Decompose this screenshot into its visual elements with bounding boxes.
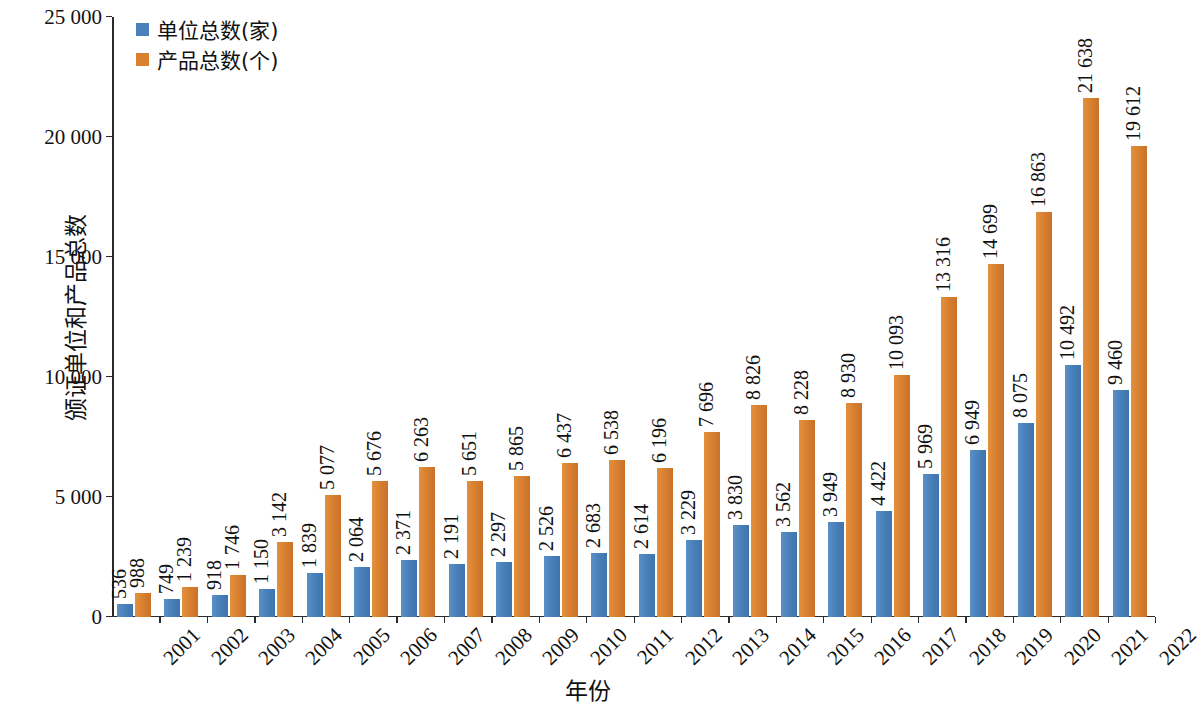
bar[interactable] [117,604,133,617]
bar-group: 4 42210 093 [871,17,918,617]
bar[interactable] [686,540,702,617]
y-tick-label: 5 000 [7,485,102,510]
legend-item[interactable]: 产品总数(个) [136,44,278,74]
bar[interactable] [307,573,323,617]
x-tick-label: 2010 [585,623,632,670]
bar-value-label: 1 150 [251,539,271,584]
bar[interactable] [1018,423,1034,617]
x-tick-label: 2016 [870,623,917,670]
bar[interactable] [1083,98,1099,617]
bar[interactable] [562,463,578,617]
bar-value-label: 5 676 [364,431,384,476]
bar[interactable] [1131,146,1147,617]
bar-value-label: 2 064 [346,517,366,562]
x-tick-label: 2015 [822,623,869,670]
bar-group: 3 2297 696 [681,17,728,617]
x-tick-label: 2008 [490,623,537,670]
bar-value-label: 16 863 [1028,152,1048,207]
bar[interactable] [277,542,293,617]
y-tick-label: 10 000 [7,365,102,390]
bar-value-label: 6 437 [554,413,574,458]
bar[interactable] [496,562,512,617]
bar[interactable] [923,474,939,617]
bar[interactable] [988,264,1004,617]
bar-group: 2 0645 676 [349,17,396,617]
bar[interactable] [449,564,465,617]
bar[interactable] [941,297,957,617]
bar[interactable] [182,587,198,617]
bar[interactable] [1065,365,1081,617]
bar[interactable] [639,554,655,617]
bar-value-label: 5 865 [506,426,526,471]
bar[interactable] [544,556,560,617]
bar-group: 2 6146 196 [634,17,681,617]
legend-item[interactable]: 单位总数(家) [136,14,278,44]
bar-value-label: 7 696 [696,382,716,427]
bar[interactable] [609,460,625,617]
bar[interactable] [212,595,228,617]
bar[interactable] [781,532,797,617]
bar[interactable] [799,420,815,617]
bar[interactable] [354,567,370,617]
bar[interactable] [230,575,246,617]
x-tick-mark [871,617,872,623]
bar[interactable] [894,375,910,617]
bar-value-label: 2 683 [583,503,603,548]
x-tick-mark [1013,617,1014,623]
bar-value-label: 6 263 [411,417,431,462]
bar[interactable] [164,599,180,617]
bar-value-label: 3 949 [820,472,840,517]
bar[interactable] [876,511,892,617]
x-tick-label: 2017 [917,623,964,670]
bar-value-label: 19 612 [1123,86,1143,141]
x-tick-mark [1108,617,1109,623]
bar[interactable] [751,405,767,617]
x-tick-label: 2005 [348,623,395,670]
bar[interactable] [828,522,844,617]
bar-group: 9181 746 [207,17,254,617]
plot-area: 05 00010 00015 00020 00025 000 536988749… [112,17,1155,617]
bar-value-label: 10 492 [1057,305,1077,360]
bar[interactable] [372,481,388,617]
bar[interactable] [514,476,530,617]
bar-value-label: 1 239 [174,537,194,582]
x-axis-title: 年份 [0,672,1175,703]
bar-group: 6 94914 699 [965,17,1012,617]
x-tick-mark [491,617,492,623]
x-tick-mark [254,617,255,623]
bar[interactable] [846,403,862,617]
bar-value-label: 1 839 [299,523,319,568]
bar[interactable] [733,525,749,617]
bar[interactable] [401,560,417,617]
bar[interactable] [467,481,483,617]
bar-group: 2 1915 651 [444,17,491,617]
x-tick-label: 2003 [253,623,300,670]
x-tick-label: 2020 [1059,623,1106,670]
bar[interactable] [135,593,151,617]
bar-group: 7491 239 [159,17,206,617]
bar-group: 5 96913 316 [918,17,965,617]
x-tick-mark [586,617,587,623]
bar[interactable] [419,467,435,617]
x-tick-mark [634,617,635,623]
bar-value-label: 21 638 [1075,38,1095,93]
x-tick-mark [1155,617,1156,623]
x-tick-mark [681,617,682,623]
bar-group: 2 6836 538 [586,17,633,617]
x-tick-mark [207,617,208,623]
x-tick-label: 2018 [964,623,1011,670]
bar[interactable] [704,432,720,617]
bar[interactable] [970,450,986,617]
bar[interactable] [1113,390,1129,617]
bar-value-label: 8 930 [838,353,858,398]
bar[interactable] [325,495,341,617]
bar[interactable] [1036,212,1052,617]
bar[interactable] [259,589,275,617]
bar[interactable] [657,468,673,617]
bar[interactable] [591,553,607,617]
x-tick-label: 2011 [632,623,679,670]
y-axis-title: 颁证单位和产品总数 [57,167,91,467]
x-tick-label: 2022 [1154,623,1201,670]
x-tick-mark [539,617,540,623]
bar-value-label: 9 460 [1105,340,1125,385]
